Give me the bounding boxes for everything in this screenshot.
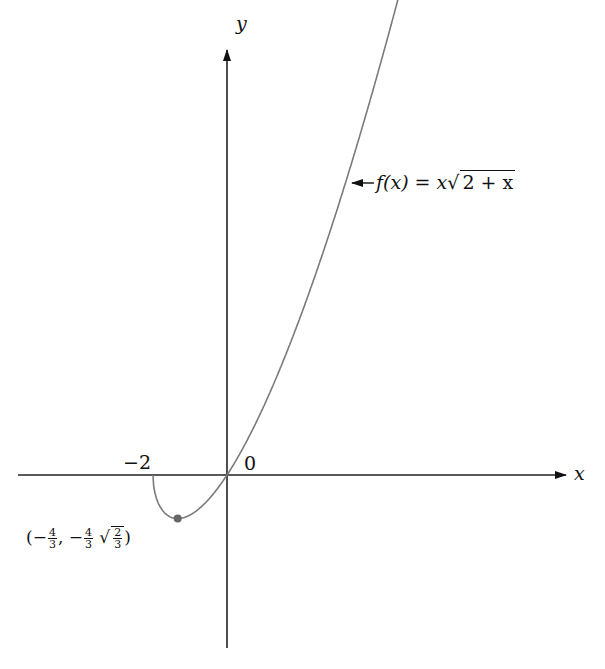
tick-label-origin: 0 xyxy=(244,452,256,474)
frac-den: 3 xyxy=(48,539,57,550)
minimum-point-marker xyxy=(174,515,182,523)
function-label-radicand: 2 + x xyxy=(460,170,515,193)
point-mid: , − xyxy=(58,527,83,547)
frac-den-2: 3 xyxy=(84,539,93,550)
y-axis-label: y xyxy=(236,12,247,34)
point-open: (− xyxy=(26,527,47,547)
function-plot xyxy=(0,0,605,669)
function-label-prefix: f(x) = x xyxy=(376,171,447,193)
minimum-point-label: (−43, −43 √23) xyxy=(26,526,131,550)
tick-label-neg2: −2 xyxy=(123,451,151,473)
function-label: f(x) = x√2 + x xyxy=(376,170,515,193)
x-axis-label: x xyxy=(574,462,585,484)
function-curve xyxy=(153,0,398,519)
rad-den: 3 xyxy=(113,539,122,550)
point-close: ) xyxy=(124,527,131,547)
